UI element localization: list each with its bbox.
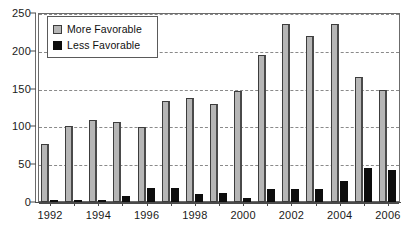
- bar-2005-less-favorable: [364, 168, 372, 202]
- bar-2001-less-favorable: [267, 189, 275, 202]
- x-tick-mark-1998: [195, 202, 196, 206]
- bar-1995-more-favorable: [113, 122, 121, 202]
- bar-1999-less-favorable: [219, 193, 227, 202]
- legend-entry-more-favorable: More Favorable: [53, 21, 152, 37]
- legend-swatch-icon-more: [53, 25, 62, 34]
- bar-2002-more-favorable: [282, 24, 290, 202]
- y-axis-line: [35, 13, 36, 203]
- legend-label: More Favorable: [67, 23, 142, 35]
- bar-1997-more-favorable: [162, 101, 170, 202]
- bar-2006-more-favorable: [379, 90, 387, 202]
- x-tick-mark-1993: [74, 202, 75, 206]
- bar-2002-less-favorable: [291, 189, 299, 202]
- y-tick-label-100: 100: [12, 120, 31, 132]
- y-tick-label-200: 200: [12, 45, 31, 57]
- bar-2001-more-favorable: [258, 55, 266, 202]
- x-tick-label-1998: 1998: [182, 209, 207, 221]
- bar-1998-more-favorable: [186, 98, 194, 202]
- legend-label: Less Favorable: [67, 39, 140, 51]
- y-tick-label-250: 250: [12, 7, 31, 19]
- x-tick-mark-1996: [147, 202, 148, 206]
- x-axis-line: [35, 202, 401, 203]
- x-tick-mark-2001: [267, 202, 268, 206]
- x-tick-label-1994: 1994: [86, 209, 111, 221]
- x-tick-mark-2002: [291, 202, 292, 206]
- bar-group-2000: [231, 13, 255, 202]
- bar-1996-less-favorable: [147, 188, 155, 202]
- x-tick-label-2004: 2004: [327, 209, 352, 221]
- y-tick-mark-50: [30, 164, 36, 165]
- bar-2000-more-favorable: [234, 91, 242, 202]
- legend-swatch-icon-less: [53, 41, 62, 50]
- x-tick-mark-2000: [243, 202, 244, 206]
- bar-group-1999: [207, 13, 231, 202]
- x-tick-label-1992: 1992: [37, 209, 62, 221]
- bar-group-2001: [255, 13, 279, 202]
- x-tick-mark-2006: [388, 202, 389, 206]
- bar-1996-more-favorable: [138, 127, 146, 202]
- x-tick-mark-1994: [98, 202, 99, 206]
- y-tick-mark-250: [30, 13, 36, 14]
- bar-1992-more-favorable: [41, 144, 49, 202]
- y-tick-label-150: 150: [12, 83, 31, 95]
- bar-1999-more-favorable: [210, 104, 218, 202]
- x-tick-mark-1999: [219, 202, 220, 206]
- bar-group-2006: [376, 13, 400, 202]
- bar-group-2003: [303, 13, 327, 202]
- x-tick-mark-2003: [316, 202, 317, 206]
- x-tick-mark-1997: [171, 202, 172, 206]
- legend-entry-less-favorable: Less Favorable: [53, 37, 152, 53]
- x-tick-label-2006: 2006: [375, 209, 400, 221]
- bar-group-2002: [279, 13, 303, 202]
- chart-legend: More FavorableLess Favorable: [47, 16, 158, 58]
- bar-group-2004: [328, 13, 352, 202]
- bar-1993-more-favorable: [65, 126, 73, 202]
- x-tick-label-2000: 2000: [230, 209, 255, 221]
- bar-group-1997: [159, 13, 183, 202]
- bar-group-2005: [352, 13, 376, 202]
- bar-chart: 050100150200250 199219941996199820002002…: [0, 0, 420, 240]
- x-tick-mark-1992: [50, 202, 51, 206]
- bar-2004-less-favorable: [340, 181, 348, 202]
- x-tick-label-2002: 2002: [279, 209, 304, 221]
- y-tick-mark-200: [30, 50, 36, 51]
- bar-1997-less-favorable: [171, 188, 179, 202]
- bar-1998-less-favorable: [195, 194, 203, 202]
- bar-2003-less-favorable: [315, 189, 323, 202]
- y-tick-mark-100: [30, 126, 36, 127]
- bar-2006-less-favorable: [388, 170, 396, 202]
- bar-2003-more-favorable: [306, 36, 314, 202]
- y-tick-mark-150: [30, 88, 36, 89]
- bar-2005-more-favorable: [355, 77, 363, 202]
- bar-group-1998: [183, 13, 207, 202]
- x-tick-mark-2004: [340, 202, 341, 206]
- x-tick-label-1996: 1996: [134, 209, 159, 221]
- bar-2004-more-favorable: [331, 24, 339, 202]
- x-tick-mark-1995: [122, 202, 123, 206]
- x-tick-mark-2005: [364, 202, 365, 206]
- bar-1994-more-favorable: [89, 120, 97, 202]
